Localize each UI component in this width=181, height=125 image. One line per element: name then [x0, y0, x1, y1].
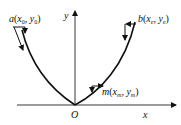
label-a: a(x0, y0): [9, 13, 41, 25]
label-m: m(xm, ym): [102, 86, 139, 98]
curve-diagram: a(x0, y0) b(xe, ye) m(xm, ym) y x O: [0, 0, 181, 125]
x-axis-label: x: [142, 109, 148, 120]
vector-triangle-a: [13, 27, 25, 50]
origin-label: O: [71, 109, 78, 120]
label-b: b(xe, ye): [138, 13, 169, 25]
y-axis-label: y: [63, 10, 69, 21]
curve-left: [22, 30, 75, 105]
